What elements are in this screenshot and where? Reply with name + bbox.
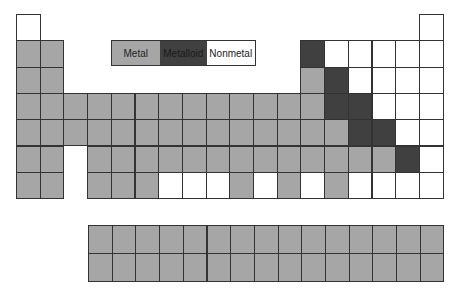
element-cell-metal (182, 119, 207, 146)
element-cell-metal (158, 146, 183, 173)
element-cell-nonmetal (419, 146, 444, 173)
element-cell-metal (87, 93, 112, 120)
element-cell-metal (396, 253, 421, 282)
element-cell-metal (40, 146, 65, 173)
element-cell-metal (207, 253, 232, 282)
element-cell-metal (135, 119, 160, 146)
element-cell-metal (88, 253, 113, 282)
element-cell-metal (253, 146, 278, 173)
element-cell-metal (206, 146, 231, 173)
element-cell-metal (111, 172, 136, 199)
element-cell-nonmetal (419, 93, 444, 120)
element-cell-nonmetal (300, 172, 325, 199)
element-cell-nonmetal (348, 67, 373, 94)
element-cell-metal (229, 146, 254, 173)
element-cell-metal (87, 172, 112, 199)
element-cell-metal (300, 93, 325, 120)
element-cell-metal (63, 119, 88, 146)
element-cell-metal (135, 172, 160, 199)
element-cell-metal (300, 119, 325, 146)
element-cell-metal (324, 119, 349, 146)
element-cell-nonmetal (419, 172, 444, 199)
element-cell-metalloid (348, 93, 373, 120)
element-cell-metal (63, 93, 88, 120)
element-cell-nonmetal (395, 40, 420, 67)
element-cell-metal (111, 93, 136, 120)
element-cell-metal (372, 253, 397, 282)
element-cell-metal (420, 225, 445, 254)
element-cell-metal (420, 253, 445, 282)
element-cell-metal (278, 225, 303, 254)
element-cell-metal (182, 93, 207, 120)
element-cell-metal (253, 119, 278, 146)
element-cell-nonmetal (372, 40, 397, 67)
element-cell-metalloid (395, 146, 420, 173)
element-cell-metal (324, 146, 349, 173)
element-cell-metal (300, 67, 325, 94)
element-cell-metal (182, 146, 207, 173)
element-cell-metal (40, 172, 65, 199)
element-cell-metal (16, 146, 41, 173)
element-cell-metal (325, 225, 350, 254)
legend: Metal Metalloid Nonmetal (111, 40, 256, 66)
element-cell-nonmetal (158, 172, 183, 199)
element-cell-nonmetal (372, 93, 397, 120)
element-cell-metal (135, 93, 160, 120)
element-cell-metal (278, 253, 303, 282)
element-cell-metal (183, 225, 208, 254)
element-cell-nonmetal (372, 172, 397, 199)
element-cell-metalloid (372, 119, 397, 146)
element-cell-metal (16, 93, 41, 120)
element-cell-metalloid (324, 93, 349, 120)
element-cell-metal (396, 225, 421, 254)
element-cell-metal (207, 225, 232, 254)
element-cell-metal (254, 253, 279, 282)
element-cell-metal (40, 119, 65, 146)
element-cell-metal (16, 172, 41, 199)
element-cell-nonmetal (395, 119, 420, 146)
element-cell-metal (135, 146, 160, 173)
element-cell-metal (111, 119, 136, 146)
element-cell-metal (230, 253, 255, 282)
element-cell-metal (254, 225, 279, 254)
element-cell-metal (348, 146, 373, 173)
element-cell-metal (206, 93, 231, 120)
element-cell-nonmetal (348, 172, 373, 199)
element-cell-metal (277, 93, 302, 120)
element-cell-metal (16, 67, 41, 94)
element-cell-metal (230, 225, 255, 254)
element-cell-metal (88, 225, 113, 254)
element-cell-metal (300, 146, 325, 173)
element-cell-metal (159, 253, 184, 282)
element-cell-nonmetal (182, 172, 207, 199)
element-cell-metal (16, 119, 41, 146)
element-cell-metal (349, 225, 374, 254)
element-cell-metal (111, 146, 136, 173)
element-cell-metalloid (324, 67, 349, 94)
element-cell-nonmetal (348, 40, 373, 67)
element-cell-metal (159, 225, 184, 254)
element-cell-metal (301, 225, 326, 254)
element-cell-nonmetal (395, 172, 420, 199)
element-cell-metal (229, 172, 254, 199)
element-cell-metal (349, 253, 374, 282)
element-cell-metal (158, 93, 183, 120)
legend-nonmetal: Nonmetal (207, 41, 255, 65)
element-cell-nonmetal (419, 67, 444, 94)
element-cell-metal (87, 119, 112, 146)
element-cell-metal (158, 119, 183, 146)
element-cell-metal (277, 119, 302, 146)
element-cell-metalloid (348, 119, 373, 146)
element-cell-metal (40, 93, 65, 120)
element-cell-metal (229, 93, 254, 120)
legend-metal: Metal (112, 41, 160, 65)
element-cell-metal (301, 253, 326, 282)
element-cell-metal (135, 225, 160, 254)
element-cell-metal (135, 253, 160, 282)
element-cell-nonmetal (419, 119, 444, 146)
element-cell-metal (277, 172, 302, 199)
element-cell-nonmetal (395, 67, 420, 94)
element-cell-nonmetal (16, 14, 41, 41)
element-cell-metal (40, 40, 65, 67)
legend-metalloid: Metalloid (160, 41, 208, 65)
